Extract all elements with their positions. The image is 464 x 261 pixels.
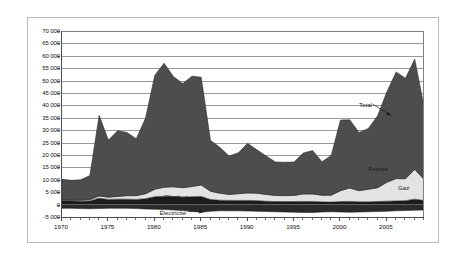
chart-annotations: TotalPétroleGazCharbonÉlectricité: [28, 18, 440, 244]
annotation-electricite: Électricité: [159, 209, 186, 216]
chart-screenshot: 70 00065 00060 00055 00050 00045 00040 0…: [0, 0, 464, 261]
annotation-petrole: Pétrole: [368, 165, 388, 172]
annotation-gaz: Gaz: [398, 184, 409, 191]
annotation-total: Total: [359, 101, 372, 108]
annotation-charbon: Charbon: [164, 193, 188, 200]
figure-frame: 70 00065 00060 00055 00050 00045 00040 0…: [27, 17, 439, 243]
